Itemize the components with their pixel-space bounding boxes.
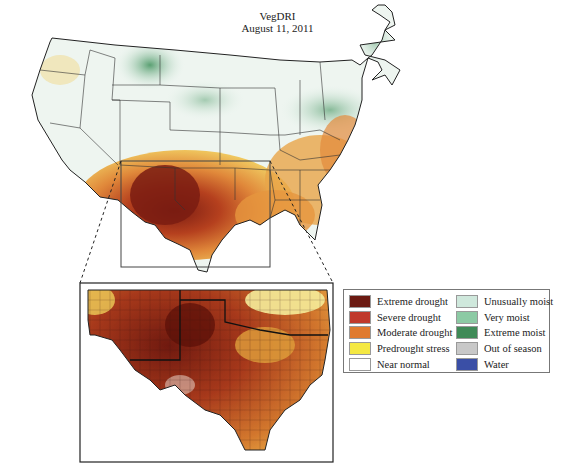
legend-label: Extreme drought	[377, 296, 448, 307]
legend-column-moist: Unusually moist Very moist Extreme moist…	[456, 294, 553, 372]
legend: Extreme drought Severe drought Moderate …	[343, 289, 550, 373]
legend-label: Very moist	[484, 312, 530, 323]
legend-item: Extreme moist	[456, 325, 553, 341]
swatch-extreme-drought	[349, 295, 371, 308]
us-map	[25, 0, 405, 290]
legend-column-drought: Extreme drought Severe drought Moderate …	[349, 294, 453, 372]
legend-item: Severe drought	[349, 310, 453, 326]
legend-item: Predrought stress	[349, 341, 453, 357]
swatch-near-normal	[349, 358, 371, 371]
inset-map	[75, 283, 333, 462]
swatch-water	[456, 358, 478, 371]
swatch-very-moist	[456, 311, 478, 324]
swatch-unusually-moist	[456, 295, 478, 308]
swatch-moderate-drought	[349, 326, 371, 339]
legend-item: Water	[456, 356, 553, 372]
legend-label: Extreme moist	[484, 327, 546, 338]
legend-label: Predrought stress	[377, 343, 450, 354]
legend-item: Out of season	[456, 341, 553, 357]
drought-map-figure	[0, 0, 563, 476]
legend-item: Extreme drought	[349, 294, 453, 310]
legend-label: Unusually moist	[484, 296, 553, 307]
swatch-severe-drought	[349, 311, 371, 324]
legend-label: Near normal	[377, 359, 430, 370]
swatch-predrought-stress	[349, 342, 371, 355]
legend-label: Out of season	[484, 343, 542, 354]
legend-item: Near normal	[349, 356, 453, 372]
legend-label: Moderate drought	[377, 327, 453, 338]
legend-item: Moderate drought	[349, 325, 453, 341]
legend-label: Water	[484, 359, 509, 370]
legend-item: Very moist	[456, 310, 553, 326]
legend-label: Severe drought	[377, 312, 441, 323]
legend-item: Unusually moist	[456, 294, 553, 310]
swatch-extreme-moist	[456, 326, 478, 339]
swatch-out-of-season	[456, 342, 478, 355]
